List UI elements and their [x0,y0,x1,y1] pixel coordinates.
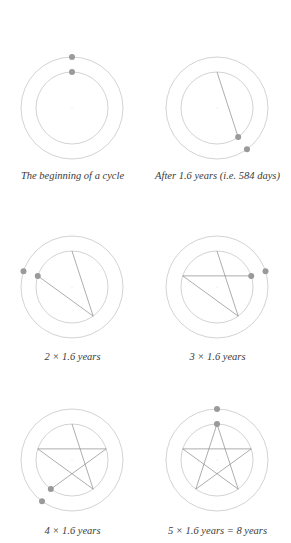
venus-dot [35,273,41,279]
caption: 4 × 1.6 years [0,525,145,536]
conjunction-path [217,424,238,489]
caption: 5 × 1.6 years = 8 years [145,525,290,536]
conjunction-path [38,276,93,316]
venus-dot [235,134,241,140]
panel-after-1-period: After 1.6 years (i.e. 584 days) [145,0,290,181]
conjunction-path [51,449,106,489]
orbit-diagram [0,0,145,181]
sun-marker [216,107,217,108]
panel-after-5-periods: 5 × 1.6 years = 8 years [145,352,290,533]
earth-dot [214,406,220,412]
panel-after-2-periods: 2 × 1.6 years [0,179,145,360]
panel-after-4-periods: 4 × 1.6 years [0,352,145,533]
earth-dot [263,268,269,274]
orbit-diagram [145,179,290,360]
sun-marker [216,286,217,287]
earth-dot [39,498,45,504]
conjunction-path [196,424,217,489]
conjunction-path [196,449,251,489]
panel-after-3-periods: 3 × 1.6 years [145,179,290,360]
conjunction-path [72,424,93,489]
conjunction-path [38,449,93,489]
conjunction-path [183,449,238,489]
sun-marker [71,286,72,287]
orbit-diagram [0,352,145,543]
panel-cycle-start: The beginning of a cycle [0,0,145,181]
conjunction-path [72,251,93,316]
orbit-diagram [0,179,145,360]
sun-marker [71,459,72,460]
orbit-diagram [145,352,290,543]
sun-marker [216,459,217,460]
earth-dot [244,146,250,152]
earth-dot [69,54,75,60]
orbit-diagram [145,0,290,181]
conjunction-path [217,72,238,137]
conjunction-path [183,276,238,316]
venus-dot [214,421,220,427]
conjunction-path [217,251,238,316]
sun-marker [71,107,72,108]
venus-dot [48,486,54,492]
venus-dot [248,273,254,279]
venus-dot [69,69,75,75]
earth-dot [20,268,26,274]
